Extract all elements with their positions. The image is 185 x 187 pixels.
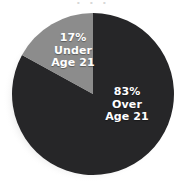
pie-label-over-line2: Age 21 <box>96 111 158 124</box>
pie-label-under-line2: Age 21 <box>42 57 104 70</box>
pie-chart-figure: · · · 17% Under Age 21 83% Over Age 21 <box>0 0 185 187</box>
pie-label-over-age-21: 83% Over Age 21 <box>96 86 158 124</box>
pie-label-under-percent: 17% <box>42 32 104 45</box>
pie-label-over-percent: 83% <box>96 86 158 99</box>
pie-label-under-age-21: 17% Under Age 21 <box>42 32 104 70</box>
